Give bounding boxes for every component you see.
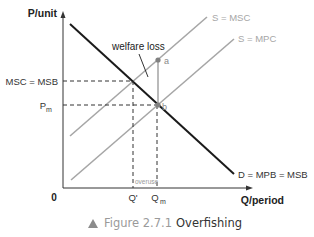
price-social-label: MSC = MSB	[5, 76, 58, 87]
msc-curve	[70, 17, 207, 136]
point-b-label: b	[162, 102, 167, 112]
y-axis-arrow-icon	[61, 11, 66, 18]
figure-caption: Figure 2.7.1 Overfishing	[88, 216, 242, 230]
figure-title: Overfishing	[176, 216, 242, 230]
price-market-subscript: m	[46, 106, 52, 113]
demand-curve-label: D = MPB = MSB	[238, 169, 308, 180]
mpc-curve-label: S = MPC	[238, 33, 276, 44]
point-b-marker	[155, 102, 160, 107]
q-social-label: Q'	[128, 192, 137, 203]
point-a-label: a	[164, 56, 169, 66]
point-a-marker	[155, 57, 160, 62]
y-axis-label: P/unit	[28, 7, 58, 19]
msc-curve-label: S = MSC	[212, 12, 250, 23]
overfishing-diagram: P/unit Q/period 0 S = MSC S = MPC D = MP…	[0, 0, 314, 237]
q-market-label: Q	[151, 192, 158, 203]
overuse-label: overuse	[135, 178, 159, 185]
figure-number: Figure 2.7.1	[104, 216, 172, 230]
q-market-subscript: m	[160, 198, 166, 205]
x-axis-arrow-icon	[246, 186, 253, 191]
triangle-icon	[88, 219, 98, 228]
welfare-loss-pointer	[139, 54, 148, 77]
origin-label: 0	[51, 192, 57, 203]
welfare-loss-label: welfare loss	[111, 41, 165, 52]
mpc-curve	[71, 39, 234, 180]
x-axis-label: Q/period	[241, 194, 284, 206]
